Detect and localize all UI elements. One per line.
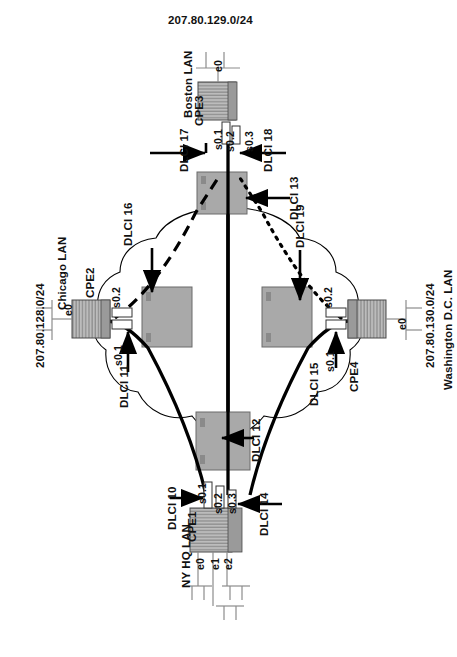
washington-lan-label: Washington D.C. LAN [442, 270, 454, 390]
cpe1-e1-label: e1 [209, 558, 221, 570]
router-cpe1-label: CPE1 [186, 512, 198, 542]
cpe2-s01-label: s0.1 [112, 345, 124, 366]
cpe3-s01-label: s0.1 [212, 129, 224, 150]
cpe4-s02-label: s0.2 [322, 287, 334, 308]
cpe1-s03-label: s0.3 [226, 493, 238, 514]
dlci-10-label: DLCI 10 [166, 486, 178, 530]
dlci-16-label: DLCI 16 [122, 202, 134, 246]
boston-e0-label: e0 [212, 60, 224, 72]
washington-subnet-label: 207.80.130.0/24 [424, 283, 436, 368]
cpe2-s02-label: s0.2 [110, 287, 122, 308]
fr-switch-west [142, 287, 192, 347]
cpe3-s03-label: s0.3 [243, 131, 255, 152]
dlci-15-label: DLCI 15 [308, 362, 320, 406]
cpe4-s01-label: s0.1 [324, 351, 336, 372]
dlci-19-label: DLCI 19 [294, 204, 306, 248]
dlci-14-label: DLCI 14 [258, 492, 270, 536]
router-cpe3-label: CPE3 [193, 96, 205, 126]
router-cpe4-label: CPE4 [348, 362, 360, 392]
fr-switch-east [262, 287, 312, 347]
boston-subnet-label: 207.80.129.0/24 [168, 14, 253, 26]
dlci-17-label: DLCI 17 [178, 128, 190, 172]
dlci-11-label: DLCI 11 [118, 365, 130, 408]
cpe1-s02-label: s0.2 [212, 493, 224, 514]
cpe1-s01-label: s0.1 [196, 483, 208, 504]
cpe1-e0-label: e0 [194, 558, 206, 570]
dlci-12-label: DLCI 12 [250, 418, 262, 462]
washington-e0-label: e0 [396, 318, 408, 330]
router-cpe2-label: CPE2 [84, 268, 96, 298]
dlci-18-label: DLCI 18 [262, 128, 274, 172]
cpe1-e2-label: e2 [222, 558, 234, 570]
cpe3-s02-label: s0.2 [224, 131, 236, 152]
lan-symbol-ny-hq [184, 586, 250, 620]
chicago-e0-label: e0 [62, 304, 74, 316]
fr-switch-south [196, 412, 250, 470]
chicago-subnet-label: 207.80.128.0/24 [34, 283, 46, 368]
chicago-lan-label: Chicago LAN [56, 237, 68, 310]
network-diagram-canvas: 207.80.129.0/24 Boston LAN e0 CPE3 s0.1 … [0, 0, 457, 657]
lan-symbol-washington [406, 300, 422, 340]
